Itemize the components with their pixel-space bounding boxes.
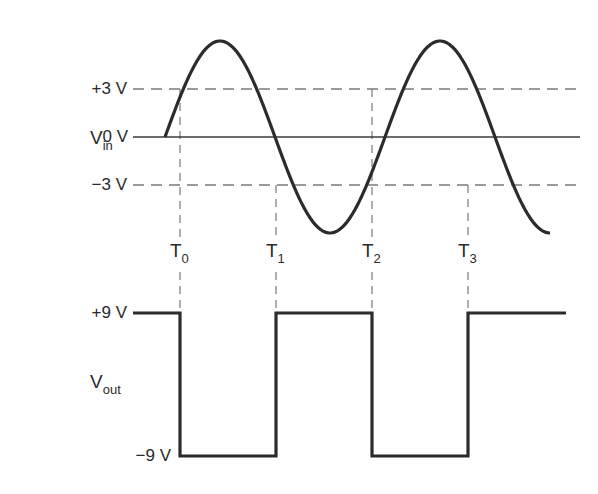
vout-signal-label: Vout — [90, 372, 121, 391]
t0-sub: 0 — [182, 251, 189, 266]
waveform-diagram — [0, 0, 598, 494]
tick-label-plus9v: +9 V — [92, 304, 127, 321]
t2-sub: 2 — [374, 251, 381, 266]
t0-main: T — [170, 240, 182, 261]
t1-main: T — [266, 240, 278, 261]
time-marker-lines — [180, 89, 468, 313]
tick-label-minus3v: −3 V — [92, 176, 127, 193]
time-marker-t2: T2 — [362, 241, 381, 260]
tick-label-0v: 0 V — [102, 128, 128, 145]
time-marker-t0: T0 — [170, 241, 189, 260]
vout-label-main: V — [90, 371, 103, 392]
tick-label-plus3v: +3 V — [92, 80, 127, 97]
t1-sub: 1 — [278, 251, 285, 266]
vout-square-trace — [133, 313, 566, 456]
t3-main: T — [458, 240, 470, 261]
tick-label-minus9v: −9 V — [136, 447, 171, 464]
time-marker-t3: T3 — [458, 241, 477, 260]
t2-main: T — [362, 240, 374, 261]
vout-label-sub: out — [103, 382, 121, 397]
t3-sub: 3 — [470, 251, 477, 266]
time-marker-t1: T1 — [266, 241, 285, 260]
vin-label-main: V — [90, 127, 103, 148]
